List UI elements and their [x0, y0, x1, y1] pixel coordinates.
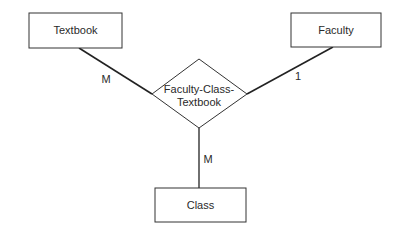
entity-class-label: Class [187, 199, 215, 211]
entity-textbook[interactable]: Textbook [29, 13, 122, 48]
relationship-faculty-class-textbook[interactable]: Faculty-Class- Textbook [152, 59, 247, 128]
entity-class[interactable]: Class [155, 188, 246, 222]
connector-textbook [79, 48, 152, 94]
entity-faculty-label: Faculty [318, 24, 354, 36]
cardinality-textbook: M [101, 73, 110, 85]
cardinality-faculty: 1 [295, 70, 301, 82]
relationship-label-line2: Textbook [177, 96, 222, 108]
entity-faculty[interactable]: Faculty [291, 13, 381, 47]
relationship-label-line1: Faculty-Class- [164, 83, 235, 95]
connector-faculty [247, 47, 333, 94]
cardinality-class: M [203, 153, 212, 165]
entity-textbook-label: Textbook [53, 24, 98, 36]
er-diagram: Textbook Faculty Class Faculty-Class- Te… [0, 0, 399, 233]
